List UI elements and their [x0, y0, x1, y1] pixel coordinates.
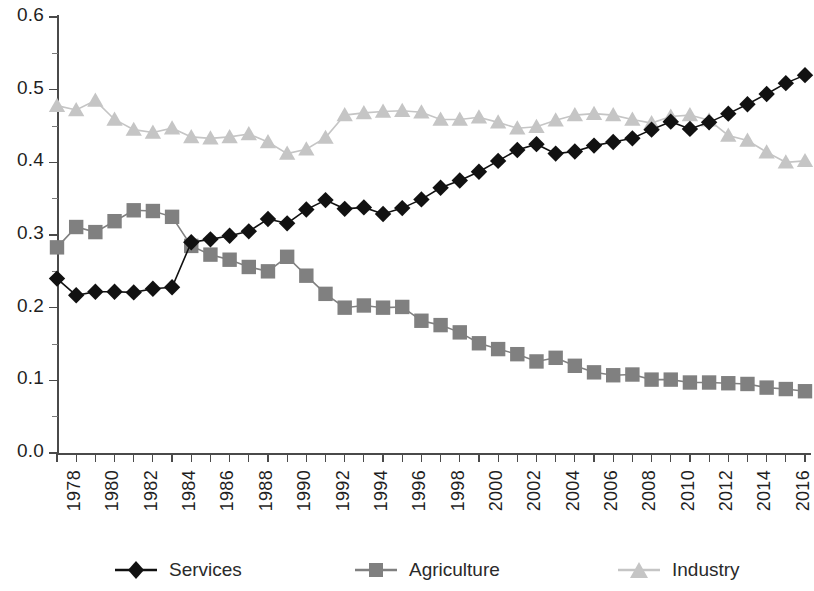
data-point-marker — [625, 367, 639, 381]
legend-item-industry[interactable]: Industry — [616, 559, 740, 581]
data-point-marker — [721, 376, 735, 390]
data-point-marker — [106, 283, 122, 299]
data-point-marker — [337, 300, 351, 314]
data-point-marker — [759, 380, 773, 394]
data-point-marker — [260, 211, 276, 227]
data-point-marker — [50, 240, 64, 254]
data-point-marker — [165, 210, 179, 224]
data-point-marker — [164, 120, 180, 134]
data-point-marker — [260, 134, 276, 148]
data-point-marker — [376, 300, 390, 314]
data-point-marker — [394, 103, 410, 117]
data-point-marker — [202, 231, 218, 247]
data-point-marker — [69, 220, 83, 234]
data-point-marker — [471, 164, 487, 180]
data-point-marker — [127, 203, 141, 217]
data-point-marker — [798, 384, 812, 398]
series-line — [57, 75, 805, 295]
data-point-marker — [146, 204, 160, 218]
data-point-marker — [568, 359, 582, 373]
data-point-marker — [88, 225, 102, 239]
data-point-marker — [318, 287, 332, 301]
data-point-marker — [87, 93, 103, 107]
data-point-marker — [241, 223, 257, 239]
data-point-marker — [357, 298, 371, 312]
data-point-marker — [298, 201, 314, 217]
data-point-marker — [587, 365, 601, 379]
data-point-marker — [336, 201, 352, 217]
legend-marker-square-icon — [353, 559, 399, 581]
data-point-marker — [375, 206, 391, 222]
data-point-marker — [126, 122, 142, 136]
data-point-marker — [586, 106, 602, 120]
data-point-marker — [567, 143, 583, 159]
data-point-marker — [586, 137, 602, 153]
data-point-marker — [183, 129, 199, 143]
series-agriculture — [50, 203, 812, 398]
data-point-marker — [164, 279, 180, 295]
data-point-marker — [547, 145, 563, 161]
data-point-marker — [605, 134, 621, 150]
data-point-marker — [682, 107, 698, 121]
data-point-marker — [490, 153, 506, 169]
legend-marker-diamond-icon — [113, 559, 159, 581]
data-point-marker — [413, 191, 429, 207]
series-line — [57, 210, 805, 391]
data-point-marker — [299, 268, 313, 282]
data-point-marker — [510, 347, 524, 361]
series-services — [49, 67, 813, 304]
data-point-marker — [509, 142, 525, 158]
data-point-marker — [740, 377, 754, 391]
data-point-marker — [797, 67, 813, 83]
data-point-marker — [453, 325, 467, 339]
data-point-marker — [528, 136, 544, 152]
data-point-marker — [624, 130, 640, 146]
data-point-marker — [280, 250, 294, 264]
legend-item-services[interactable]: Services — [113, 559, 242, 581]
data-point-marker — [797, 153, 813, 167]
data-point-marker — [683, 375, 697, 389]
data-point-marker — [702, 375, 716, 389]
legend-item-agriculture[interactable]: Agriculture — [353, 559, 500, 581]
data-point-marker — [720, 105, 736, 121]
data-point-marker — [433, 318, 447, 332]
data-point-marker — [414, 314, 428, 328]
data-point-marker — [87, 283, 103, 299]
data-point-marker — [298, 141, 314, 155]
data-point-marker — [145, 281, 161, 297]
data-point-marker — [395, 300, 409, 314]
data-point-marker — [528, 119, 544, 133]
legend-label-agriculture: Agriculture — [409, 559, 500, 581]
data-point-marker — [471, 109, 487, 123]
data-point-marker — [452, 172, 468, 188]
data-point-marker — [682, 121, 698, 137]
data-point-marker — [491, 342, 505, 356]
data-point-marker — [49, 98, 65, 112]
data-point-marker — [644, 372, 658, 386]
data-point-marker — [548, 351, 562, 365]
data-point-marker — [221, 228, 237, 244]
data-point-marker — [606, 368, 620, 382]
data-point-marker — [242, 260, 256, 274]
data-point-marker — [643, 121, 659, 137]
data-point-marker — [720, 127, 736, 141]
data-point-marker — [222, 253, 236, 267]
data-point-marker — [779, 382, 793, 396]
data-point-marker — [701, 114, 717, 130]
data-point-marker — [432, 111, 448, 125]
data-point-marker — [279, 215, 295, 231]
data-point-marker — [664, 372, 678, 386]
data-point-marker — [241, 126, 257, 140]
data-point-marker — [472, 336, 486, 350]
data-point-marker — [739, 96, 755, 112]
data-point-marker — [126, 284, 142, 300]
data-point-marker — [356, 199, 372, 215]
data-point-marker — [317, 192, 333, 208]
data-point-marker — [394, 200, 410, 216]
data-point-marker — [261, 264, 275, 278]
data-point-marker — [778, 75, 794, 91]
legend-marker-triangle-icon — [616, 559, 662, 581]
data-point-marker — [529, 354, 543, 368]
data-point-marker — [203, 247, 217, 261]
